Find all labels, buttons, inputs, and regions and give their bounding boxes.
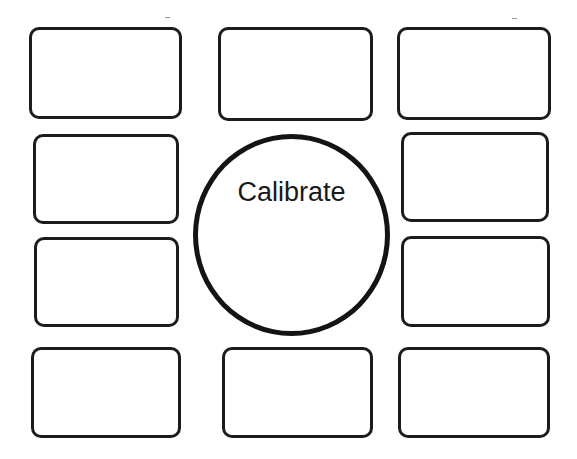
- box-middle-left-lower[interactable]: [34, 237, 179, 327]
- box-top-center[interactable]: [218, 27, 373, 121]
- box-bottom-center[interactable]: [222, 347, 373, 438]
- box-middle-left-upper[interactable]: [33, 134, 179, 224]
- box-bottom-right[interactable]: [398, 347, 550, 438]
- tick-mark-left: [165, 17, 170, 18]
- box-middle-right-lower[interactable]: [401, 236, 550, 327]
- calibrate-circle[interactable]: Calibrate: [193, 134, 390, 336]
- box-top-right[interactable]: [397, 27, 551, 120]
- calibrate-label: Calibrate: [198, 179, 385, 206]
- tick-mark-right: [512, 18, 517, 19]
- box-top-left[interactable]: [29, 27, 182, 119]
- box-bottom-left[interactable]: [31, 347, 181, 438]
- box-middle-right-upper[interactable]: [401, 132, 549, 222]
